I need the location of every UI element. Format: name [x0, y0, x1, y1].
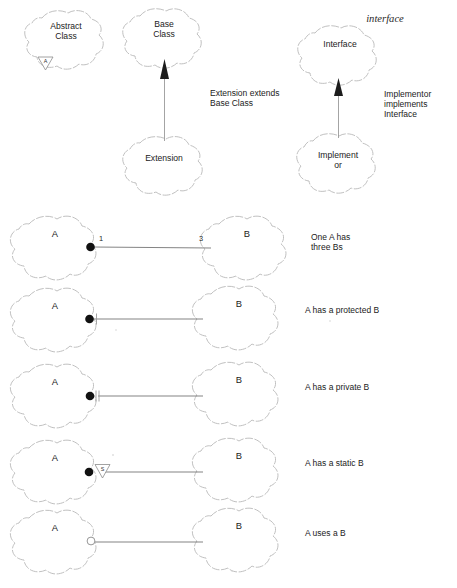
association-line-1: [93, 247, 211, 248]
association-caption-3-line1: A has a private B: [305, 382, 370, 392]
abstract-class-label-line2: Class: [55, 31, 77, 41]
inheritance-caption-line2: Base Class: [210, 98, 253, 108]
base-class-label-line1: Base: [154, 19, 174, 29]
association-target-blob-3: [192, 362, 278, 426]
interface-stereotype-label: interface: [366, 13, 404, 24]
association-source-label-3: A: [52, 376, 59, 387]
association-source-label-1: A: [52, 228, 59, 239]
association-source-blob-4: [10, 440, 96, 504]
filled-circle-1: [86, 243, 95, 252]
hollow-circle-5: [87, 537, 95, 545]
association-source-label-5: A: [52, 522, 59, 533]
uml-notation-diagram: Abstract Class A Base Class Extension Ex…: [0, 0, 457, 588]
target-multiplicity-1: 3: [199, 234, 203, 243]
interface-blob: [298, 26, 377, 85]
association-target-label-5: B: [236, 520, 242, 531]
inheritance-caption-line1: Extension extends: [210, 88, 279, 98]
implementation-caption-line3: Interface: [384, 109, 417, 119]
association-row-one-to-three: A B 1 3 One A has three Bs: [10, 216, 350, 280]
association-target-label-1: B: [244, 228, 250, 239]
interface-label: Interface: [323, 39, 357, 49]
association-caption-1-line2: three Bs: [311, 242, 343, 252]
association-source-blob-1: [10, 216, 96, 280]
association-target-blob-1: [200, 216, 286, 280]
association-source-blob-2: [10, 288, 96, 352]
extension-label: Extension: [145, 153, 183, 163]
implementation-group: interface Interface Implement or Impleme…: [297, 13, 432, 193]
association-caption-4-line1: A has a static B: [305, 458, 364, 468]
association-target-label-2: B: [236, 298, 242, 309]
association-caption-2-line1: A has a protected B: [305, 305, 380, 315]
association-target-blob-2: [192, 286, 278, 350]
implementation-caption-line1: Implementor: [384, 89, 431, 99]
implementor-label-line1: Implement: [318, 150, 359, 160]
base-class-label-line2: Class: [153, 29, 175, 39]
association-target-blob-4: [192, 438, 278, 502]
implementor-label-line2: or: [334, 160, 342, 170]
extension-blob: [123, 137, 203, 196]
association-row-static-member: A B S A has a static B: [10, 438, 364, 504]
svg-text:A: A: [44, 58, 48, 64]
inheritance-group: Base Class Extension Extension extends B…: [123, 9, 280, 195]
association-source-blob-3: [10, 364, 96, 428]
association-source-label-4: A: [52, 452, 59, 463]
association-source-blob-5: [10, 510, 96, 574]
association-source-label-2: A: [52, 300, 59, 311]
association-caption-5-line1: A uses a B: [305, 528, 346, 538]
association-row-private-member: A B A has a private B: [10, 362, 369, 428]
abstract-class-group: Abstract Class A: [25, 11, 104, 70]
association-target-label-3: B: [236, 374, 242, 385]
abstract-class-label-line1: Abstract: [50, 21, 82, 31]
diagram-canvas: Abstract Class A Base Class Extension Ex…: [0, 0, 457, 588]
association-row-protected-member: A B A has a protected B: [10, 286, 379, 352]
association-row-uses-dependency: A B A uses a B: [10, 508, 346, 574]
association-target-label-4: B: [236, 450, 242, 461]
source-multiplicity-1: 1: [99, 234, 103, 243]
implementation-caption-line2: implements: [384, 99, 427, 109]
association-target-blob-5: [192, 508, 278, 572]
association-caption-1-line1: One A has: [311, 232, 350, 242]
static-marker-letter: S: [101, 466, 105, 472]
